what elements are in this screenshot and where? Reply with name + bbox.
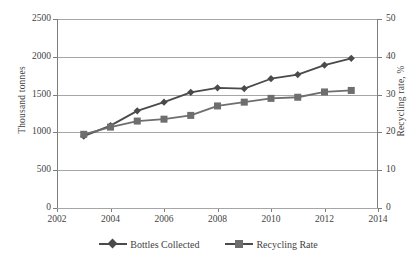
y-axis-right-tick-label: 10 (386, 164, 417, 174)
line-chart: Thousand tonnes Recycling rate, % 050010… (0, 0, 417, 264)
square-marker-icon (321, 88, 328, 95)
diamond-marker-icon (321, 62, 328, 69)
square-marker-icon (214, 102, 221, 109)
square-marker-icon (161, 116, 168, 123)
square-marker-icon (268, 95, 275, 102)
diamond-marker-icon (187, 89, 194, 96)
square-marker-icon (225, 238, 253, 250)
y-axis-right-tick-mark (378, 170, 382, 171)
square-marker-icon (134, 118, 141, 125)
y-axis-right-tick-label: 20 (386, 126, 417, 136)
x-axis-tick-mark (378, 208, 379, 212)
y-axis-right-tick-label: 40 (386, 51, 417, 61)
legend-item-bottles-collected[interactable]: Bottles Collected (99, 238, 199, 250)
y-axis-left-tick-label: 1000 (9, 126, 51, 136)
y-axis-right-tick-label: 30 (386, 89, 417, 99)
y-axis-right-tick-label: 0 (386, 202, 417, 212)
y-axis-left-tick-label: 500 (9, 164, 51, 174)
legend-item-recycling-rate[interactable]: Recycling Rate (225, 238, 317, 250)
legend-label-recycling-rate: Recycling Rate (256, 239, 317, 250)
square-marker-icon (348, 87, 355, 94)
diamond-marker-icon (348, 55, 355, 62)
y-axis-left-tick-label: 1500 (9, 89, 51, 99)
diamond-marker-icon (241, 85, 248, 92)
x-axis-tick-label: 2002 (34, 214, 80, 224)
diamond-marker-icon (99, 238, 127, 250)
y-axis-right-tick-mark (378, 19, 382, 20)
square-marker-icon (107, 124, 114, 131)
y-axis-left-tick-label: 2000 (9, 51, 51, 61)
square-marker-icon (80, 131, 87, 138)
x-axis-tick-label: 2012 (302, 214, 348, 224)
series-2 (80, 87, 355, 138)
square-marker-icon (294, 94, 301, 101)
diamond-marker-icon (267, 75, 274, 82)
x-axis-tick-label: 2004 (88, 214, 134, 224)
series-layer (57, 19, 378, 208)
chart-legend: Bottles Collected Recycling Rate (0, 238, 417, 250)
x-axis-tick-label: 2006 (141, 214, 187, 224)
series-1 (80, 55, 355, 140)
x-axis-tick-label: 2014 (355, 214, 401, 224)
x-axis-tick-label: 2008 (195, 214, 241, 224)
y-axis-left-tick-label: 2500 (9, 13, 51, 23)
diamond-marker-icon (134, 107, 141, 114)
y-axis-left-tick-label: 0 (9, 202, 51, 212)
plot-area (57, 19, 378, 208)
y-axis-right-tick-mark (378, 57, 382, 58)
diamond-marker-icon (214, 84, 221, 91)
x-axis-tick-label: 2010 (248, 214, 294, 224)
y-axis-right-tick-label: 50 (386, 13, 417, 23)
gridline (57, 208, 378, 209)
diamond-marker-icon (160, 99, 167, 106)
diamond-marker-icon (294, 71, 301, 78)
square-marker-icon (187, 112, 194, 119)
y-axis-right-tick-mark (378, 95, 382, 96)
legend-label-bottles-collected: Bottles Collected (130, 239, 199, 250)
series-line (84, 90, 352, 134)
y-axis-right-tick-mark (378, 132, 382, 133)
square-marker-icon (241, 99, 248, 106)
